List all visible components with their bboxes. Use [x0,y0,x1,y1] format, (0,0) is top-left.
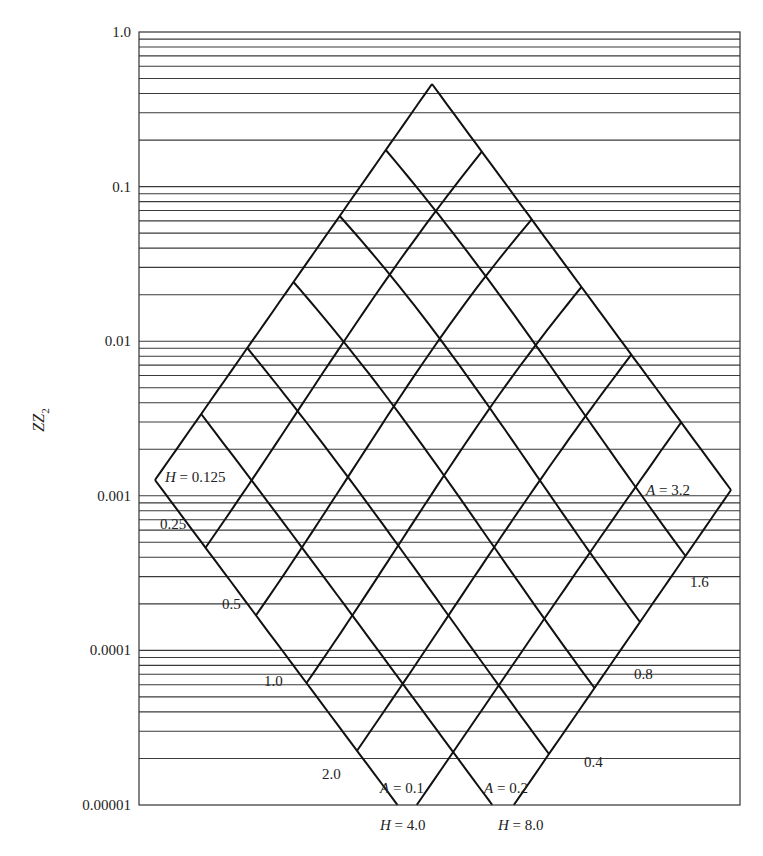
curve-label: 2.0 [322,766,341,782]
a-curve [201,414,492,805]
curve-label: H = 0.125 [164,469,226,485]
h-curve [417,422,682,805]
curve-label: 1.0 [264,673,283,689]
curve-label: H = 8.0 [497,817,544,833]
y-tick-label: 1.0 [112,24,131,40]
y-tick-label: 0.01 [105,333,131,349]
y-tick-label: 0.001 [97,488,131,504]
a-curve [155,480,398,805]
curve-label: A = 0.1 [379,780,424,796]
curve-label: 0.5 [222,596,241,612]
y-tick-label: 0.1 [112,179,131,195]
curve-label: 1.6 [690,574,709,590]
y-tick-label: 0.00001 [82,797,131,813]
y-axis-tick-labels: 1.00.10.010.0010.00010.00001 [82,24,131,813]
curve-label: 0.25 [160,516,186,532]
curve-label: A = 3.2 [645,482,690,498]
nomograph-chart: 1.00.10.010.0010.00010.00001 H = 0.1250.… [0,0,763,856]
y-tick-label: 0.0001 [90,642,131,658]
y-axis-label: ZZ2 [30,408,51,431]
curve-label: H = 4.0 [379,817,426,833]
curve-label: A = 0.2 [483,780,528,796]
a-curve [247,348,549,754]
curve-label: 0.8 [634,666,653,682]
horizontal-log-gridlines [139,39,740,758]
plot-frame [139,32,740,805]
curve-label: 0.4 [584,754,603,770]
h-curve [514,490,731,805]
